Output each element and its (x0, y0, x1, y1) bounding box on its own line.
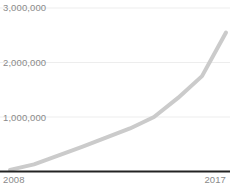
chart-plot-area (0, 0, 230, 187)
y-axis-tick-label-2000000: 2,000,000 (3, 58, 46, 68)
x-axis-tick-label-start: 2008 (3, 175, 25, 185)
y-axis-tick-label-1000000: 1,000,000 (3, 113, 46, 123)
y-axis-tick-label-3000000: 3,000,000 (3, 3, 46, 13)
data-series-line (10, 33, 226, 170)
line-chart: 3,000,000 2,000,000 1,000,000 2008 2017 (0, 0, 230, 187)
x-axis-tick-label-end: 2017 (204, 175, 226, 185)
